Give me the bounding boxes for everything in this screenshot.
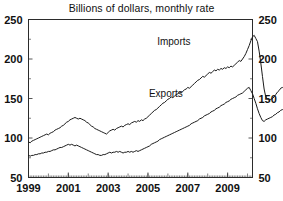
y-axis-tick-label-left: 100 xyxy=(4,132,22,144)
series-annotation-exports: Exports xyxy=(149,88,183,99)
y-axis-tick-label-left: 200 xyxy=(4,53,22,65)
chart-container: Billions of dollars, monthly rate 501001… xyxy=(0,0,283,201)
y-axis-tick-label-right: 50 xyxy=(259,172,271,184)
x-axis-tick-label: 2003 xyxy=(96,182,120,194)
y-axis-tick-label-left: 250 xyxy=(4,14,22,26)
x-axis: 199920012003200520072009 xyxy=(16,173,252,194)
x-axis-tick-label: 1999 xyxy=(16,182,40,194)
x-axis-tick-label: 2009 xyxy=(215,182,239,194)
y-axis-tick-label-right: 250 xyxy=(259,14,277,26)
series-annotation-imports: Imports xyxy=(157,36,190,47)
x-axis-tick-label: 2005 xyxy=(136,182,160,194)
chart-plot-area: 50100150200250 50100150200250 1999200120… xyxy=(0,0,283,201)
plot-frame xyxy=(29,20,253,178)
y-axis-tick-label-left: 150 xyxy=(4,93,22,105)
y-axis-tick-label-right: 100 xyxy=(259,132,277,144)
x-axis-tick-label: 2007 xyxy=(176,182,200,194)
x-axis-tick-label: 2001 xyxy=(56,182,80,194)
y-axis-tick-label-right: 150 xyxy=(259,93,277,105)
